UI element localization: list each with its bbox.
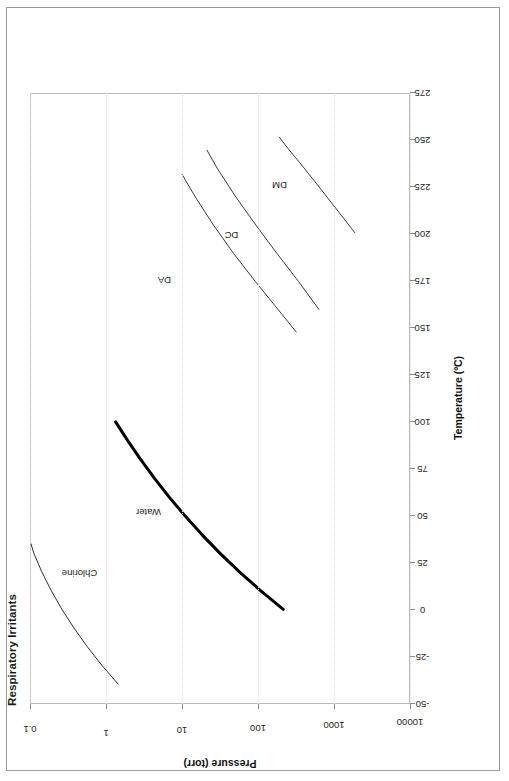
x-tick-label: 275 (415, 88, 431, 99)
x-tick-label: 0 (420, 605, 425, 616)
series-line-da (182, 175, 296, 332)
gridline (30, 93, 31, 704)
series-label-chlorine: Chlorine (62, 568, 97, 579)
screenshot-page: Respiratory Irritants -50-25025507510012… (0, 0, 509, 781)
y-tick-label: 100 (250, 723, 266, 734)
y-tick-mark (410, 704, 411, 709)
y-tick-mark (106, 704, 107, 709)
x-axis-title: Temperature (ºC) (452, 356, 464, 440)
x-tick-label: 25 (417, 558, 428, 569)
y-tick-label: 10000 (397, 717, 423, 728)
y-tick-label: 0.1 (23, 724, 36, 735)
x-tick-label: 150 (415, 323, 431, 334)
y-tick-mark (258, 704, 259, 709)
x-tick-mark (410, 515, 415, 516)
series-label-dc: DC (225, 229, 239, 240)
series-label-water: Water (136, 507, 161, 518)
gridline (106, 93, 107, 704)
x-tick-label: 50 (417, 511, 428, 522)
series-line-dm (279, 137, 355, 233)
gridline (334, 93, 335, 704)
series-curves (31, 94, 409, 703)
x-tick-mark (410, 656, 415, 657)
x-tick-label: 175 (415, 276, 431, 287)
y-tick-label: 1 (103, 728, 108, 739)
x-tick-label: 75 (417, 464, 428, 475)
gridline (410, 93, 411, 704)
gridline (182, 93, 183, 704)
x-tick-mark (410, 468, 415, 469)
x-tick-label: -50 (416, 699, 430, 710)
x-tick-label: 250 (415, 135, 431, 146)
y-tick-mark (182, 704, 183, 709)
series-label-da: DA (158, 275, 171, 286)
y-tick-mark (334, 704, 335, 709)
x-tick-label: -25 (416, 652, 430, 663)
series-label-dm: DM (272, 180, 287, 191)
x-tick-label: 125 (415, 370, 431, 381)
gridline (258, 93, 259, 704)
y-tick-label: 1000 (323, 720, 344, 731)
rotated-chart-container: Respiratory Irritants -50-25025507510012… (0, 4, 506, 776)
plot-area (30, 93, 410, 704)
y-axis-title: Pressure (torr) (184, 758, 257, 770)
y-tick-mark (30, 704, 31, 709)
x-tick-mark (410, 562, 415, 563)
chart-title: Respiratory Irritants (6, 594, 18, 706)
y-tick-label: 10 (177, 725, 188, 736)
x-tick-label: 225 (415, 182, 431, 193)
x-tick-label: 200 (415, 229, 431, 240)
x-tick-label: 100 (415, 417, 431, 428)
x-tick-mark (410, 609, 415, 610)
